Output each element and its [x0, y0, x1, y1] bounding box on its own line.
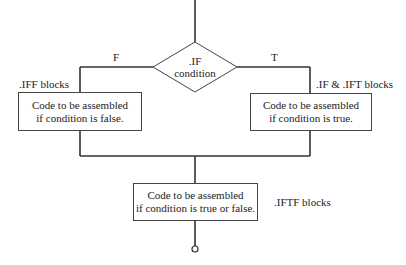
false-block-tag: .IFF blocks	[19, 78, 69, 90]
both-block-tag: .IFTF blocks	[274, 196, 331, 208]
terminal-connector	[192, 246, 198, 252]
true-branch-label: T	[271, 51, 278, 63]
true-block-line2: if condition is true.	[251, 112, 371, 125]
decision-text: .IF condition	[155, 55, 235, 79]
true-code-block: Code to be assembled if condition is tru…	[250, 93, 372, 131]
both-block-line1: Code to be assembled	[134, 189, 257, 202]
both-block-line2: if condition is true or false.	[134, 202, 257, 215]
false-block-line2: if condition is false.	[19, 112, 141, 125]
false-block-line1: Code to be assembled	[19, 99, 141, 112]
decision-line1: .IF	[155, 55, 235, 67]
true-block-tag: .IF & .IFT blocks	[316, 78, 393, 90]
false-code-block: Code to be assembled if condition is fal…	[18, 92, 142, 131]
both-code-block: Code to be assembled if condition is tru…	[133, 183, 258, 221]
true-block-line1: Code to be assembled	[251, 99, 371, 112]
false-branch-label: F	[113, 51, 119, 63]
flowchart-connectors	[0, 0, 406, 265]
decision-line2: condition	[155, 67, 235, 79]
